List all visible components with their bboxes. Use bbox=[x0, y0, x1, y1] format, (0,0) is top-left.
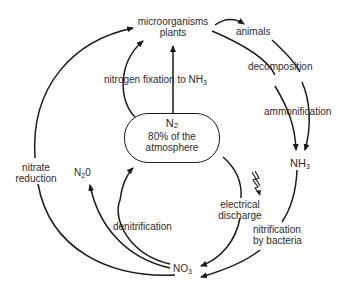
ammonification-inner-arrow bbox=[275, 86, 296, 150]
label-ammonification: ammonification bbox=[264, 106, 331, 117]
label-nitrogen-fixation: nitrogen fixation to NH3 bbox=[104, 74, 207, 88]
nitrification-arrow-lower bbox=[201, 250, 260, 277]
label-nitrification-1: nitrification bbox=[253, 224, 301, 235]
node-animals: animals bbox=[236, 26, 270, 37]
node-plants: plants bbox=[130, 27, 216, 38]
n2-atmosphere-label: N2 80% of the atmosphere bbox=[124, 118, 220, 153]
label-electrical-discharge-1: electrical bbox=[216, 199, 264, 210]
label-nitrate-reduction-1: nitrate bbox=[14, 162, 58, 173]
plants-to-animals-arrow bbox=[215, 20, 244, 25]
node-nh3: NH3 bbox=[290, 158, 310, 172]
label-electrical-discharge-2: discharge bbox=[216, 210, 264, 221]
node-microorganisms: microorganisms bbox=[130, 16, 216, 27]
label-nitrification-2: by bacteria bbox=[253, 235, 302, 246]
label-decomposition: decomposition bbox=[248, 61, 312, 72]
nitrification-arrow-upper bbox=[282, 170, 297, 222]
discharge-arrow-upper bbox=[223, 157, 241, 198]
label-denitrification: denitrification bbox=[113, 221, 172, 232]
discharge-arrow-lower bbox=[201, 218, 240, 266]
denitrification-to-n2-arrow bbox=[118, 168, 170, 264]
label-nitrate-reduction-2: reduction bbox=[14, 173, 58, 184]
node-no3: NO3 bbox=[173, 263, 192, 277]
nitrate-reduction-arrow-upper bbox=[35, 28, 133, 158]
node-n2o: N20 bbox=[74, 167, 91, 181]
